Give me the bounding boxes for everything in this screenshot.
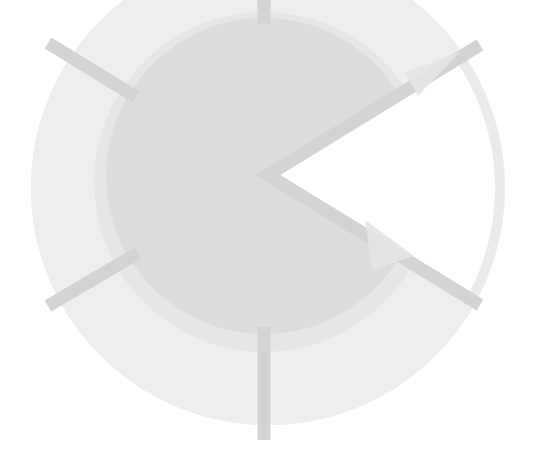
wedge-diagram: [0, 0, 534, 476]
